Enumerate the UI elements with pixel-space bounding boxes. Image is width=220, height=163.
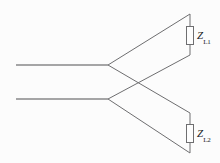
circuit-schematic — [0, 0, 220, 163]
impedance-zl1-box — [187, 27, 194, 45]
branch-upper-to-top — [108, 14, 190, 65]
impedance-zl2-box — [187, 125, 194, 143]
impedance-zl1-subscript: L1 — [203, 38, 210, 46]
impedance-zl2-subscript: L2 — [203, 136, 210, 144]
branch-lower-to-bottom — [108, 99, 190, 153]
impedance-zl1-label: ZL1 — [197, 30, 211, 44]
branch-lower-to-top-cross — [108, 55, 190, 99]
diagram-canvas: ZL1 ZL2 — [0, 0, 220, 163]
impedance-zl2-label: ZL2 — [197, 128, 211, 142]
branch-upper-to-bottom-cross — [108, 65, 190, 113]
